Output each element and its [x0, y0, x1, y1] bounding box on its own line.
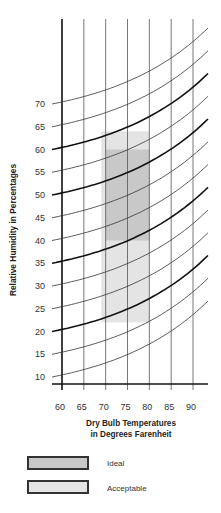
- svg-text:55: 55: [35, 167, 45, 177]
- x-tick-labels: 60657075808590: [55, 402, 196, 412]
- svg-text:70: 70: [99, 402, 109, 412]
- y-axis-title: Relative Humidity in Percentages: [8, 164, 18, 297]
- legend-item-acceptable: Acceptable: [27, 480, 89, 494]
- svg-text:25: 25: [35, 304, 45, 314]
- legend-item-ideal: Ideal: [27, 456, 89, 470]
- x-axis-title: Dry Bulb Temperatures in Degrees Farenhe…: [56, 418, 206, 440]
- ideal-swatch: [27, 456, 89, 470]
- svg-text:40: 40: [35, 236, 45, 246]
- svg-text:20: 20: [35, 327, 45, 337]
- x-axis-title-line2: in Degrees Farenheit: [56, 429, 206, 440]
- svg-text:15: 15: [35, 349, 45, 359]
- svg-text:10: 10: [35, 372, 45, 382]
- x-axis-title-line1: Dry Bulb Temperatures: [56, 418, 206, 429]
- svg-text:30: 30: [35, 281, 45, 291]
- svg-text:80: 80: [142, 402, 152, 412]
- svg-text:35: 35: [35, 258, 45, 268]
- svg-text:60: 60: [55, 402, 65, 412]
- y-tick-labels: 10152025303540455055606570: [35, 99, 45, 382]
- rh-curve-70: [52, 28, 208, 104]
- svg-text:90: 90: [186, 402, 196, 412]
- legend-label-acceptable: Acceptable: [107, 484, 147, 493]
- svg-text:70: 70: [35, 99, 45, 109]
- svg-text:75: 75: [120, 402, 130, 412]
- svg-text:45: 45: [35, 213, 45, 223]
- acceptable-swatch: [27, 480, 89, 494]
- svg-text:85: 85: [164, 402, 174, 412]
- svg-text:65: 65: [35, 122, 45, 132]
- svg-text:50: 50: [35, 190, 45, 200]
- temperature-gridlines: [62, 19, 193, 390]
- svg-text:60: 60: [35, 145, 45, 155]
- legend-label-ideal: Ideal: [107, 459, 124, 468]
- rh-curve-65: [52, 51, 208, 127]
- svg-text:65: 65: [77, 402, 87, 412]
